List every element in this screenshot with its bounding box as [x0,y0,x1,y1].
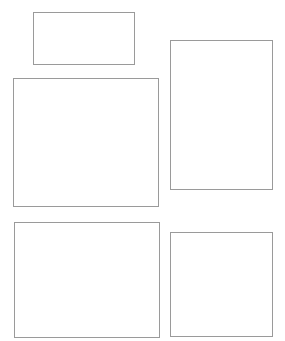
rect-bottom-right [170,232,273,337]
rect-bottom-left [14,222,160,338]
rect-right-tall [170,40,273,190]
sketch-canvas [0,0,285,341]
rect-left-large [13,78,159,207]
rect-top-left-small [33,12,135,65]
